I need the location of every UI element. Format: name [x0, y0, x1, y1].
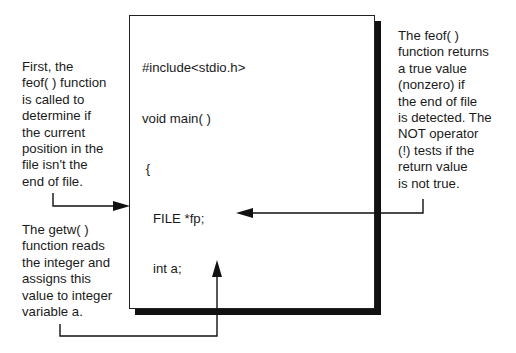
arrowhead-icon [236, 208, 253, 218]
arrow-left-bottom [60, 272, 217, 336]
arrowhead-icon [113, 201, 130, 211]
arrow-right [250, 199, 423, 213]
arrow-left-top [53, 193, 118, 206]
arrowhead-icon [212, 260, 222, 277]
callout-arrows [0, 0, 516, 353]
